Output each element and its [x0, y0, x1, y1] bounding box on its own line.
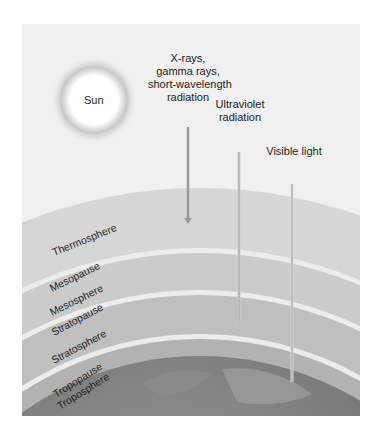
sun-label: Sun [84, 94, 104, 107]
xray-label: X-rays, gamma rays, short-wavelength rad… [148, 52, 228, 104]
visible-light-label: Visible light [264, 145, 324, 158]
atmosphere-diagram: Thermosphere Mesopause Mesosphere Strato… [22, 24, 360, 416]
uv-label: Ultraviolet radiation [212, 98, 268, 124]
